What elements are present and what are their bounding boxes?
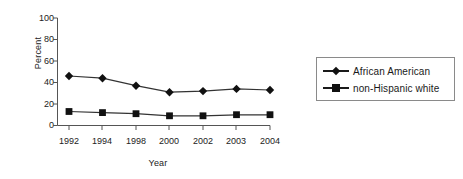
data-point-square [66, 108, 73, 115]
data-point-square [267, 111, 274, 118]
diamond-marker-icon [332, 67, 340, 75]
data-point-diamond [132, 82, 140, 90]
legend-line-swatch [323, 81, 349, 95]
series-markers-non-hispanic-white [66, 108, 274, 119]
data-point-square [99, 109, 106, 116]
data-point-diamond [65, 72, 73, 81]
square-marker-icon [332, 84, 340, 92]
legend-item-non-hispanic-white: non-Hispanic white [323, 80, 439, 96]
chart-legend: African American non-Hispanic white [316, 57, 455, 101]
data-point-square [166, 112, 173, 119]
series-markers-african-american [65, 72, 274, 97]
line-chart: Percent Year 0 20 40 60 80 100 1992 1994… [0, 0, 463, 179]
data-point-square [233, 111, 240, 118]
legend-item-african-american: African American [323, 63, 430, 79]
legend-label: non-Hispanic white [353, 83, 439, 94]
x-axis-ticks [69, 126, 270, 131]
legend-line-swatch [323, 64, 349, 78]
data-point-diamond [165, 88, 173, 96]
data-point-diamond [266, 86, 274, 94]
axis-lines [58, 18, 271, 126]
data-point-diamond [98, 74, 106, 82]
data-point-diamond [199, 87, 207, 95]
y-axis-ticks [53, 18, 58, 126]
data-point-square [200, 112, 207, 119]
legend-label: African American [353, 66, 430, 77]
data-point-diamond [232, 85, 240, 93]
data-point-square [133, 110, 140, 117]
